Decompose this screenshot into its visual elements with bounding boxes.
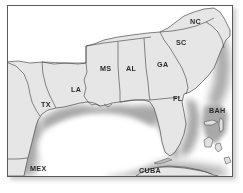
- label-tx: TX: [41, 100, 51, 109]
- label-ms: MS: [100, 64, 111, 73]
- label-sc: SC: [176, 38, 187, 47]
- label-mex: MEX: [30, 164, 46, 173]
- label-ga: GA: [157, 60, 168, 69]
- label-bah: BAH: [209, 106, 225, 115]
- label-fl: FL: [173, 94, 183, 103]
- label-cuba: CUBA: [139, 166, 161, 175]
- map-canvas: TX LA MS AL GA SC NC FL MEX CUBA BAH: [8, 6, 232, 176]
- label-al: AL: [126, 64, 136, 73]
- map-frame: TX LA MS AL GA SC NC FL MEX CUBA BAH: [7, 5, 233, 177]
- label-la: LA: [71, 85, 81, 94]
- label-nc: NC: [190, 17, 201, 26]
- map-figure: TX LA MS AL GA SC NC FL MEX CUBA BAH: [0, 0, 243, 193]
